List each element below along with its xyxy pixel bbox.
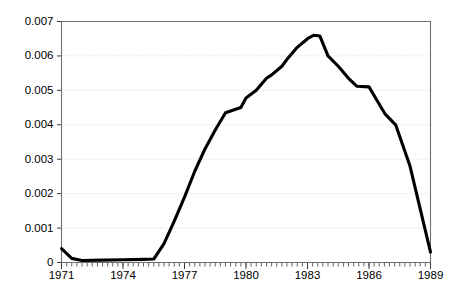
y-axis-label: 0 xyxy=(47,256,53,268)
x-axis-label: 1980 xyxy=(233,269,259,281)
y-axis-label: 0.002 xyxy=(25,187,54,199)
data-series-group xyxy=(62,35,431,260)
plot-frame xyxy=(62,22,431,263)
x-axis-label: 1971 xyxy=(49,269,75,281)
chart-container: 00.0010.0020.0030.0040.0050.0060.007 197… xyxy=(0,0,450,297)
y-axis-label: 0.003 xyxy=(25,153,54,165)
line-chart: 00.0010.0020.0030.0040.0050.0060.007 197… xyxy=(0,0,450,297)
y-axis-label: 0.006 xyxy=(25,49,54,61)
x-axis-label: 1989 xyxy=(418,269,444,281)
x-axis-label: 1974 xyxy=(110,269,136,281)
x-axis-label: 1986 xyxy=(356,269,382,281)
x-axis-label: 1983 xyxy=(295,269,321,281)
axis-frame xyxy=(62,22,431,263)
x-axis-tick-labels: 1971197419771980198319861989 xyxy=(49,269,444,281)
data-line-series-1 xyxy=(62,35,431,260)
y-axis-label: 0.005 xyxy=(25,84,54,96)
gridlines xyxy=(62,22,431,229)
y-axis-label: 0.007 xyxy=(25,15,54,27)
x-axis-label: 1977 xyxy=(172,269,198,281)
y-axis-label: 0.001 xyxy=(25,222,54,234)
y-axis-tick-labels: 00.0010.0020.0030.0040.0050.0060.007 xyxy=(25,15,54,268)
y-axis-label: 0.004 xyxy=(25,118,54,130)
y-axis-ticks xyxy=(57,22,62,263)
